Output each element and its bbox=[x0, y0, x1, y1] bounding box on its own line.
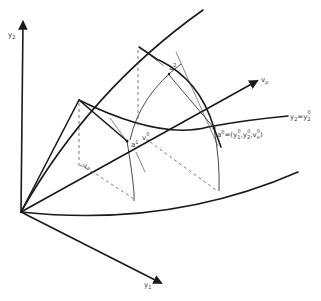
level-curve bbox=[79, 100, 288, 130]
y2-axis-label: y2 bbox=[8, 31, 15, 40]
point-a1 bbox=[126, 140, 129, 143]
tangent-a2 bbox=[176, 52, 218, 146]
vp-label: vp bbox=[261, 76, 268, 86]
point-a2 bbox=[168, 73, 170, 75]
tangent-a1 bbox=[110, 118, 128, 143]
point-a0 bbox=[213, 127, 216, 130]
level-curve-label: y2=y20 bbox=[290, 109, 311, 122]
ve-label: ve bbox=[83, 162, 90, 171]
dash-diag-long bbox=[96, 174, 134, 199]
coordinate-diagram: y2 y1 vp y2=y20 a0=(y10,y20,ve0) a1 a2 v… bbox=[0, 0, 321, 301]
dash-diag-right bbox=[150, 142, 216, 190]
a0-label: a0=(y10,y20,ve0) bbox=[217, 128, 263, 140]
cell-edge-upper bbox=[79, 100, 127, 141]
outer-arc-bottom bbox=[21, 172, 298, 216]
y1-axis-label: y1 bbox=[144, 281, 151, 290]
tangent-low bbox=[136, 152, 145, 172]
a2-a0-line bbox=[169, 75, 214, 128]
y1-axis bbox=[21, 212, 161, 283]
outer-arc-top bbox=[21, 10, 203, 212]
y2-axis bbox=[21, 22, 23, 212]
ve0-label: ve0 bbox=[142, 131, 149, 143]
